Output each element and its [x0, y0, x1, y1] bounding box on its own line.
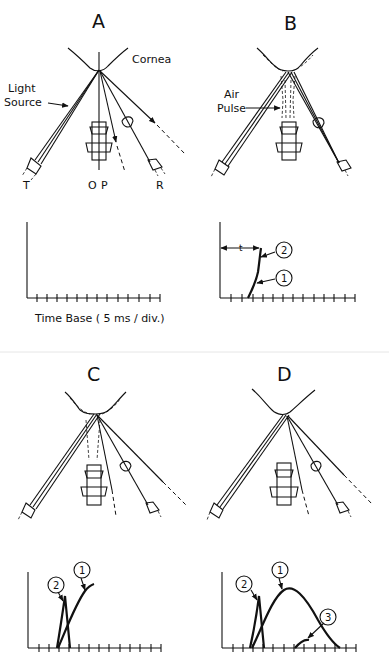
light-beam [217, 415, 289, 509]
air-pulse-nozzle [81, 465, 107, 505]
curve-1-label: 1 [79, 565, 85, 576]
label-p: P [101, 179, 108, 192]
curve-1-2 [248, 248, 261, 298]
reflected-ray-far [97, 415, 163, 482]
transmitter-housing [18, 503, 35, 520]
curve-1-label: 1 [281, 273, 287, 284]
reflected-ray-p [100, 71, 116, 142]
cornea-curve [252, 389, 315, 414]
curve-2-pointer [261, 252, 275, 257]
curve-2 [250, 596, 264, 648]
panel-letter-b: B [284, 12, 297, 34]
graph-a: Time Base ( 5 ms / div.) [27, 222, 165, 325]
graph-d: 2 1 3 [222, 562, 356, 652]
interval-t-label: t [239, 243, 243, 253]
panel-a: A Cornea Light Source [4, 10, 185, 325]
cornea-label: Cornea [132, 53, 171, 66]
light-source-label-line2: Source [4, 96, 42, 109]
receiver-housing [148, 159, 165, 176]
receiver-housing [336, 502, 351, 517]
panel-letter-d: D [277, 363, 292, 385]
reflected-ray-p [287, 416, 302, 490]
curve-1-pointer [257, 279, 275, 283]
air-pulse-stream [281, 76, 295, 118]
air-pulse-label-line2: Pulse [217, 102, 246, 115]
curve-3 [295, 640, 309, 648]
curve-2-label: 2 [53, 580, 59, 591]
receiver-ray [97, 415, 148, 505]
graph-b: t 2 1 [220, 222, 355, 302]
curve-1-pointer [279, 578, 282, 589]
curve-1 [58, 584, 94, 648]
reflected-ray-p-dashed [302, 490, 309, 516]
label-r: R [156, 179, 164, 192]
reflected-ray-far-dashed [157, 125, 185, 154]
cornea-dashed [263, 55, 313, 71]
air-pulse-nozzle [270, 463, 298, 505]
reflected-ray-p-dashed [117, 146, 125, 172]
reflected-ray-far-dashed [163, 482, 186, 505]
curve-2-pointer [251, 590, 257, 600]
receiver-ray [100, 71, 150, 162]
panel-letter-a: A [92, 10, 105, 32]
curve-2-label: 2 [241, 579, 247, 590]
panel-letter-c: C [87, 363, 100, 385]
curve-1-pointer [81, 578, 85, 590]
tonometer-figure: A Cornea Light Source [0, 0, 389, 662]
curve-3-pointer [308, 623, 324, 638]
light-beam [35, 70, 99, 164]
panel-d: D [207, 363, 373, 652]
label-o: O [88, 179, 97, 192]
panel-c: C [18, 363, 186, 652]
graph-c: 2 1 [28, 562, 161, 652]
curve-3-label: 3 [325, 612, 331, 623]
reflected-ray-far-dashed [344, 475, 373, 505]
air-pulse-nozzle [276, 122, 302, 160]
light-source-arrow [48, 103, 68, 106]
reflected-ray-p-dashed [112, 490, 116, 516]
cornea-curve [68, 48, 128, 71]
air-pulse-label-line1: Air [224, 88, 240, 101]
light-source-label-line1: Light [8, 82, 36, 95]
curve-1-label: 1 [277, 565, 283, 576]
panel-b: B Air Pulse [211, 12, 355, 302]
reflected-ray-far [100, 71, 155, 123]
receiver-housing [146, 502, 161, 517]
time-base-label: Time Base ( 5 ms / div.) [34, 312, 165, 325]
curve-2-pointer [58, 592, 63, 601]
light-beam [30, 414, 100, 509]
reflected-ray-p [97, 415, 112, 490]
label-t: T [22, 179, 30, 192]
curve-2-label: 2 [281, 245, 287, 256]
